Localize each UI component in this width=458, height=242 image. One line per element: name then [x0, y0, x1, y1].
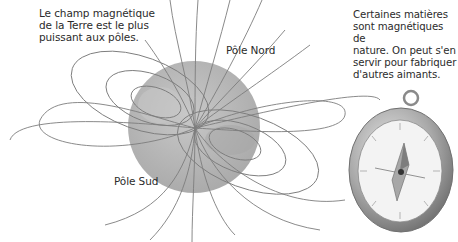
compass-icon: [349, 91, 453, 232]
caption-line: Certaines matières: [353, 9, 458, 21]
caption-line: nature. On peut s'en: [353, 45, 458, 57]
magnets-caption: Certaines matières sont magnétiques de n…: [353, 9, 458, 81]
caption-line: sont magnétiques de: [353, 21, 458, 45]
earth-field-caption: Le champ magnétique de la Terre est le p…: [39, 7, 169, 43]
south-pole-label: Pôle Sud: [114, 175, 158, 187]
caption-line: de la Terre est le plus: [39, 19, 169, 31]
caption-line: d'autres aimants.: [353, 69, 458, 81]
caption-line: puissant aux pôles.: [39, 31, 169, 43]
north-pole-label: Pôle Nord: [226, 44, 275, 56]
caption-line: Le champ magnétique: [39, 7, 169, 19]
caption-line: servir pour fabriquer: [353, 57, 458, 69]
